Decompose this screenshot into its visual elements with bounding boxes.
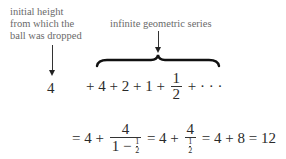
initial-height-label: initial height from which the ball was d… (10, 6, 82, 42)
small-numerator: 1 (135, 137, 139, 146)
small-fraction-half: 1 2 (135, 138, 139, 155)
initial-height-label-line-3: ball was dropped (10, 30, 82, 42)
fraction-denominator: 2 (171, 87, 183, 102)
small-denominator: 2 (135, 146, 139, 155)
initial-height-label-line-1: initial height (10, 6, 82, 18)
series-expression: + 4 + 2 + 1 + 1 2 + · · · (86, 71, 223, 102)
series-fraction-half: 1 2 (171, 71, 183, 102)
initial-height-label-line-2: from which the (10, 18, 82, 30)
fraction-numerator: 4 (185, 122, 197, 137)
fraction-numerator: 4 (110, 122, 141, 137)
small-fraction-half: 1 2 (188, 138, 192, 155)
fraction-denominator: 1 2 (185, 138, 197, 155)
derivation-fraction-2: 4 1 2 (185, 122, 197, 155)
sum-derivation: = 4 + 4 1 − 1 2 = 4 + 4 1 2 = 4 + 8 = 12 (72, 122, 276, 155)
denominator-prefix: 1 − (112, 138, 132, 154)
small-numerator: 1 (188, 137, 192, 146)
series-arrow-shaft (158, 31, 159, 48)
initial-height-arrow-icon (49, 70, 55, 76)
small-denominator: 2 (188, 146, 192, 155)
derivation-part-3: = 4 + 8 = 12 (202, 130, 276, 146)
series-terms: + 4 + 2 + 1 + (86, 78, 165, 94)
overbrace-icon (95, 54, 221, 68)
series-tail: + · · · (188, 78, 223, 94)
derivation-fraction-1: 4 1 − 1 2 (110, 122, 141, 155)
derivation-part-1: = 4 + (72, 130, 104, 146)
series-arrow-icon (155, 47, 161, 53)
fraction-numerator: 1 (171, 71, 183, 86)
first-term: 4 (47, 80, 55, 97)
initial-height-arrow-shaft (52, 45, 53, 71)
derivation-part-2: = 4 + (147, 130, 179, 146)
series-label: infinite geometric series (110, 18, 211, 30)
fraction-denominator: 1 − 1 2 (110, 138, 141, 155)
